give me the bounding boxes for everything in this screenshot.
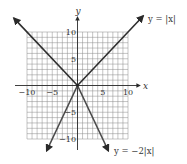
x-tick-label: 10 [123, 88, 133, 97]
y-tick-label: 10 [66, 28, 76, 37]
y-axis-label: y [75, 6, 82, 16]
x-tick-label: −10 [19, 88, 36, 97]
chart: xy −10−5510105−5−10 y = |x|y = −2|x| [0, 0, 187, 164]
series-group [14, 16, 143, 151]
series-label-1: y = |x| [147, 14, 176, 25]
x-tick-label: −5 [46, 88, 58, 97]
y-tick-label: 5 [71, 55, 76, 64]
vertex-point [76, 84, 79, 87]
x-tick-label: 5 [100, 88, 105, 97]
series-label-2: y = −2|x| [113, 146, 154, 157]
y-tick-label: −10 [59, 135, 76, 144]
series-line-1-segment [78, 16, 144, 86]
x-axis-label: x [143, 81, 148, 91]
